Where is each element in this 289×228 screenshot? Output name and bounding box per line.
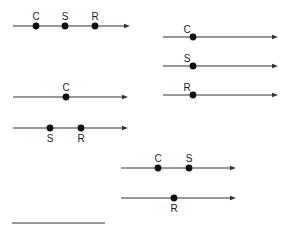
arrowhead-icon [272,93,278,97]
point-label: S [47,133,54,144]
point-c-dot [63,94,70,101]
point-label: C [62,82,69,93]
point-c-dot [33,23,40,30]
number-line-diagram: CSRCSRCSRCSR [0,0,289,228]
point-s-dot [62,23,69,30]
arrowhead-icon [230,166,236,170]
number-line: S [163,53,278,69]
point-label: S [184,53,191,64]
point-s-dot [47,125,54,132]
point-label: R [91,11,98,22]
point-r-dot [78,125,85,132]
number-line: C [163,24,278,40]
point-label: S [62,11,69,22]
arrowhead-icon [230,196,236,200]
point-label: R [77,133,84,144]
point-label: R [183,82,190,93]
point-label: C [183,24,190,35]
number-line: SR [13,125,128,144]
arrowhead-icon [122,126,128,130]
point-label: C [32,11,39,22]
point-s-dot [190,63,197,70]
number-line: C [13,82,128,100]
point-label: C [154,153,161,164]
point-r-dot [92,23,99,30]
number-line: CSR [13,11,130,29]
point-label: S [186,153,193,164]
point-label: R [170,203,177,214]
number-line: R [163,82,278,98]
point-c-dot [155,165,162,172]
arrowhead-icon [122,95,128,99]
arrowhead-icon [272,35,278,39]
number-line: CS [121,153,236,171]
point-s-dot [186,165,193,172]
point-r-dot [171,195,178,202]
arrowhead-icon [124,24,130,28]
arrowhead-icon [272,64,278,68]
number-line: R [121,195,236,214]
